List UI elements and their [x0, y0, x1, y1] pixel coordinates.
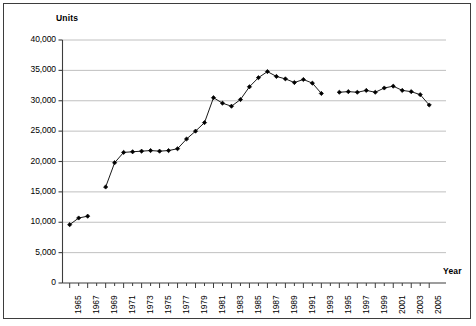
data-point-marker — [148, 148, 152, 152]
data-point-marker — [346, 90, 350, 94]
data-point-marker — [104, 185, 108, 189]
data-point-marker — [86, 214, 90, 218]
data-point-marker — [373, 90, 377, 94]
gridlines — [63, 40, 447, 253]
data-point-marker — [283, 77, 287, 81]
data-point-marker — [382, 86, 386, 90]
chart-figure: Units Year 05,00010,00015,00020,00025,00… — [0, 0, 476, 326]
data-point-marker — [355, 90, 359, 94]
data-point-marker — [364, 88, 368, 92]
data-point-marker — [337, 90, 341, 94]
data-point-marker — [409, 90, 413, 94]
data-markers — [68, 69, 432, 226]
data-point-marker — [292, 80, 296, 84]
data-point-marker — [391, 84, 395, 88]
data-point-marker — [400, 88, 404, 92]
data-point-marker — [131, 150, 135, 154]
plot-area — [0, 0, 476, 326]
data-point-marker — [274, 74, 278, 78]
data-point-marker — [166, 148, 170, 152]
y-axis-ticks — [59, 40, 63, 283]
data-point-marker — [157, 149, 161, 153]
data-point-marker — [139, 149, 143, 153]
data-point-marker — [301, 77, 305, 81]
x-axis-ticks — [70, 283, 430, 288]
data-line-segment — [106, 72, 322, 187]
